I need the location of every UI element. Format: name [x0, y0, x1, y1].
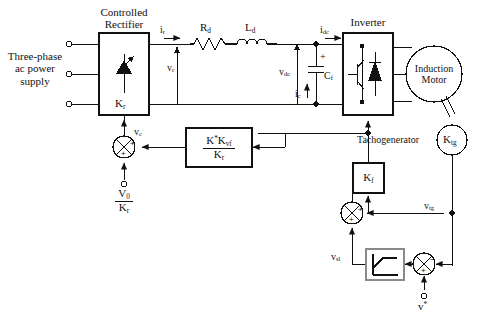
speed-error-summer-sign-right: − [430, 256, 435, 264]
controller-gain-label: K*Kvf Kr [186, 135, 252, 162]
signal-vsl-label: vsl [331, 251, 340, 263]
rectifier-title-line1: Controlled [82, 6, 166, 18]
feedback-summer-sign-bottom: + [349, 216, 354, 224]
control-summer-sign-bottom: + [121, 150, 126, 158]
signal-idc-label: idc [320, 24, 329, 36]
bias-denominator: Kr [115, 201, 133, 215]
inverter-title: Inverter [336, 16, 400, 28]
supply-label: Three-phase ac power supply [2, 50, 68, 87]
bias-numerator: V0 [115, 188, 133, 201]
control-summer-sign-right: + [130, 140, 135, 148]
supply-label-line2: ac power [2, 62, 68, 74]
rectifier-title: Controlled Rectifier [82, 6, 166, 31]
signal-ic-label: ic [295, 88, 301, 100]
capacitor-polarity-label: + [320, 51, 326, 62]
signal-vdc-label: vdc [279, 66, 290, 78]
motor-label-line2: Motor [404, 74, 464, 85]
signal-ir-label: ir [160, 24, 165, 36]
supply-label-line3: supply [2, 75, 68, 87]
filter-gain-label: Kf [353, 171, 384, 185]
rectifier-gain-sub: r [123, 103, 125, 111]
controller-gain-denominator: Kr [203, 148, 235, 162]
supply-label-line1: Three-phase [2, 50, 68, 62]
capacitor-cf-label: Cf [324, 70, 333, 82]
bias-source-label: V0 Kr [104, 188, 144, 215]
speed-reference-label: v* [418, 300, 427, 312]
feedback-summer-sign-right: + [358, 206, 363, 214]
tacho-gain-label: Ktg [443, 133, 457, 147]
rectifier-gain-label: Kr [115, 97, 125, 111]
rectifier-gain-base: K [115, 97, 123, 109]
tachogenerator-label: Tachogenerator [357, 134, 419, 145]
inductor-ld-label: Ld [245, 21, 255, 35]
block-diagram-canvas: Three-phase ac power supply Controlled R… [0, 0, 478, 314]
signal-vr-label: vr [167, 62, 174, 74]
rectifier-title-line2: Rectifier [82, 18, 166, 30]
motor-label: Induction Motor [404, 63, 464, 85]
speed-error-summer-sign-bottom: + [421, 267, 426, 275]
controller-gain-numerator: K*Kvf [203, 135, 235, 148]
signal-vtg-label: vtg [424, 200, 434, 212]
signal-vc-label: vc [134, 126, 142, 138]
resistor-rd-label: Rd [200, 21, 211, 35]
motor-label-line1: Induction [404, 63, 464, 74]
